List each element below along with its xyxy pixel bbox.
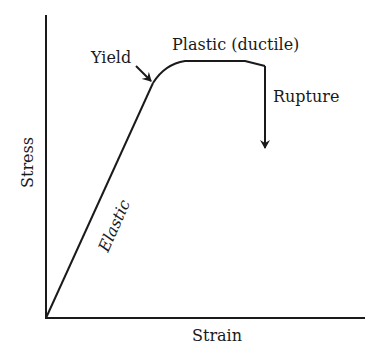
x-axis-label: Strain [192,326,242,345]
plastic-curve [153,61,265,83]
y-axis-label: Stress [18,137,37,188]
plastic-label: Plastic (ductile) [172,35,299,54]
elastic-segment [46,83,153,318]
yield-arrow [136,66,151,81]
yield-label: Yield [90,48,131,67]
elastic-label: Elastic [94,197,134,256]
rupture-label: Rupture [273,87,339,106]
stress-strain-diagram: Yield Plastic (ductile) Rupture Elastic … [0,0,380,357]
